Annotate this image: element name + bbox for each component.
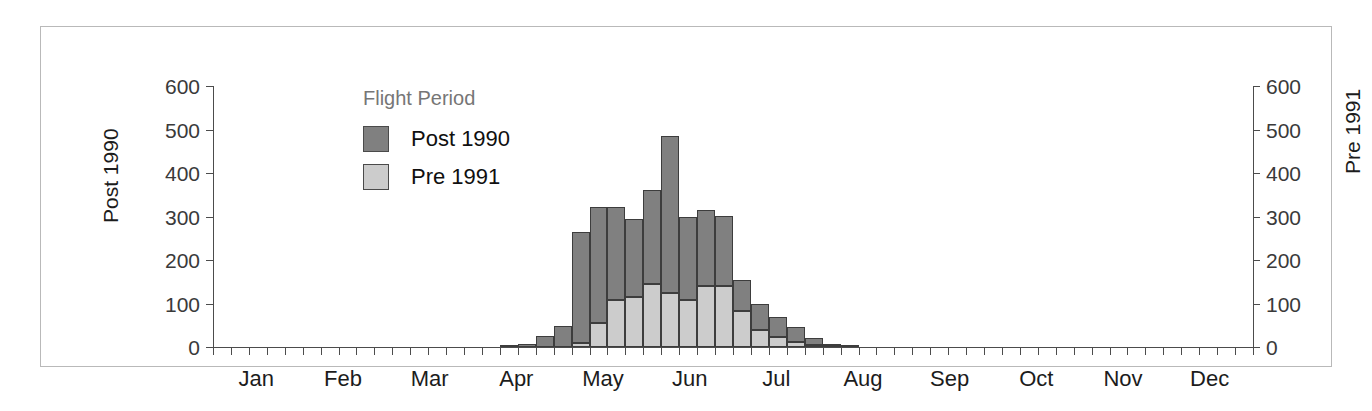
bar-segment-pre-1991	[607, 300, 625, 347]
bar-aug-w3	[751, 304, 769, 347]
chart-frame: Post 1990 Pre 1991 Flight Period Post 19…	[40, 26, 1332, 367]
x-tick-15	[482, 347, 483, 355]
x-month-label-nov: Nov	[1103, 366, 1142, 392]
x-month-label-jul: Jul	[762, 366, 790, 392]
y-label-right-600: 600	[1266, 76, 1301, 97]
x-tick-38	[894, 347, 895, 355]
x-tick-17	[518, 347, 519, 355]
x-tick-14	[464, 347, 465, 355]
bar-may-w3	[536, 336, 554, 347]
bar-segment-post-1990	[536, 336, 554, 347]
x-tick-6	[321, 347, 322, 355]
y-tick-left-100	[206, 304, 213, 305]
x-month-label-dec: Dec	[1190, 366, 1229, 392]
x-tick-39	[912, 347, 913, 355]
bar-jul-w3	[679, 217, 697, 348]
x-tick-31	[769, 347, 770, 355]
bar-jun-w2	[590, 207, 608, 348]
bar-aug-w1	[715, 216, 733, 347]
x-tick-19	[554, 347, 555, 355]
x-tick-33	[805, 347, 806, 355]
x-tick-5	[303, 347, 304, 355]
bar-segment-post-1990	[661, 136, 679, 293]
y-tick-left-200	[206, 260, 213, 261]
bar-segment-post-1990	[625, 219, 643, 297]
x-tick-3	[267, 347, 268, 355]
x-tick-7	[339, 347, 340, 355]
x-tick-49	[1092, 347, 1093, 355]
x-tick-30	[751, 347, 752, 355]
y-tick-left-0	[206, 347, 213, 348]
x-month-label-feb: Feb	[324, 366, 362, 392]
bar-segment-post-1990	[805, 338, 823, 345]
x-tick-9	[374, 347, 375, 355]
x-month-label-sep: Sep	[930, 366, 969, 392]
x-tick-42	[966, 347, 967, 355]
x-tick-53	[1163, 347, 1164, 355]
x-tick-46	[1038, 347, 1039, 355]
right-axis-line	[1253, 86, 1254, 347]
bar-jul-w4	[697, 210, 715, 347]
y-tick-right-200	[1253, 260, 1260, 261]
bar-segment-post-1990	[769, 317, 787, 338]
x-month-label-may: May	[582, 366, 624, 392]
y-tick-right-400	[1253, 173, 1260, 174]
x-tick-57	[1235, 347, 1236, 355]
y-label-right-100: 100	[1266, 294, 1301, 315]
bar-sep-w2	[805, 338, 823, 347]
bar-segment-post-1990	[643, 190, 661, 284]
x-tick-45	[1020, 347, 1021, 355]
x-tick-22	[607, 347, 608, 355]
x-tick-11	[410, 347, 411, 355]
bar-segment-pre-1991	[661, 293, 679, 347]
bar-segment-pre-1991	[679, 300, 697, 347]
x-tick-55	[1199, 347, 1200, 355]
bar-segment-post-1990	[590, 207, 608, 324]
x-tick-27	[697, 347, 698, 355]
left-axis-title: Post 1990	[99, 128, 123, 223]
y-label-left-200: 200	[165, 250, 200, 271]
y-label-left-500: 500	[165, 120, 200, 141]
x-tick-2	[249, 347, 250, 355]
y-label-left-400: 400	[165, 163, 200, 184]
bar-segment-pre-1991	[643, 284, 661, 347]
y-tick-left-300	[206, 217, 213, 218]
x-tick-16	[500, 347, 501, 355]
x-tick-25	[661, 347, 662, 355]
x-tick-54	[1181, 347, 1182, 355]
bar-jun-w3	[607, 207, 625, 348]
x-tick-50	[1110, 347, 1111, 355]
x-tick-58	[1253, 347, 1254, 355]
y-label-right-200: 200	[1266, 250, 1301, 271]
y-tick-right-600	[1253, 86, 1260, 87]
bar-sep-w1	[787, 327, 805, 347]
x-tick-0	[213, 347, 214, 355]
x-month-label-mar: Mar	[411, 366, 449, 392]
chart-page: Post 1990 Pre 1991 Flight Period Post 19…	[0, 0, 1372, 411]
bar-segment-pre-1991	[769, 337, 787, 347]
bar-jul-w1	[643, 190, 661, 347]
bar-jul-w2	[661, 136, 679, 347]
bar-segment-pre-1991	[733, 311, 751, 347]
x-tick-56	[1217, 347, 1218, 355]
x-month-label-aug: Aug	[843, 366, 882, 392]
bar-segment-post-1990	[679, 217, 697, 301]
y-label-left-300: 300	[165, 207, 200, 228]
x-tick-47	[1056, 347, 1057, 355]
bar-segment-post-1990	[554, 326, 572, 347]
y-tick-right-0	[1253, 347, 1260, 348]
x-tick-26	[679, 347, 680, 355]
bar-jun-w1	[572, 232, 590, 347]
x-tick-34	[823, 347, 824, 355]
x-tick-51	[1127, 347, 1128, 355]
y-label-right-300: 300	[1266, 207, 1301, 228]
x-tick-12	[428, 347, 429, 355]
y-label-left-0: 0	[188, 337, 200, 358]
x-tick-24	[643, 347, 644, 355]
x-month-label-jan: Jan	[239, 366, 274, 392]
x-tick-37	[876, 347, 877, 355]
bar-segment-post-1990	[751, 304, 769, 329]
y-tick-right-100	[1253, 304, 1260, 305]
x-tick-21	[590, 347, 591, 355]
y-label-left-100: 100	[165, 294, 200, 315]
